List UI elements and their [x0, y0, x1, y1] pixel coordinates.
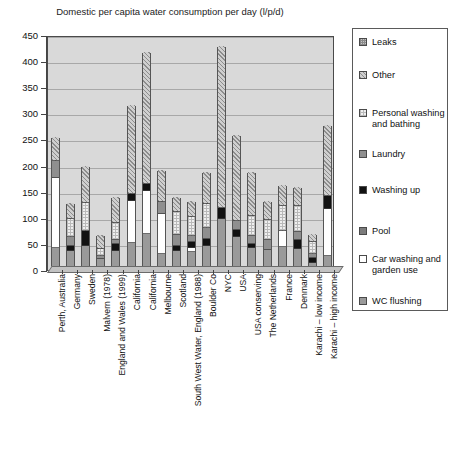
bar-segment-laundry — [233, 221, 240, 230]
bar-2[interactable] — [81, 167, 90, 270]
legend-item-label: WC flushing — [372, 296, 422, 307]
legend-item-label: Other — [372, 70, 395, 81]
bar-segment-other — [203, 172, 210, 204]
bar-18[interactable] — [323, 126, 332, 270]
plot-area — [47, 36, 334, 271]
y-axis-tick-label: 400 — [22, 57, 38, 67]
bar-12[interactable] — [232, 136, 241, 270]
bar-segment-other — [52, 137, 59, 161]
bar-segment-washup — [203, 239, 210, 245]
legend-item-3[interactable]: Laundry — [359, 149, 405, 160]
bar-segment-wc — [218, 219, 225, 269]
y-axis-tick-label: 0 — [33, 266, 38, 276]
bar-segment-personal — [294, 206, 301, 232]
bar-segment-laundry — [112, 240, 119, 244]
bar-segment-other — [112, 197, 119, 222]
bar-segment-other — [97, 235, 104, 249]
legend-swatch-icon — [359, 109, 367, 117]
gridline — [48, 115, 333, 116]
y-axis-tick-label: 150 — [22, 188, 38, 198]
bar-segment-wc — [143, 234, 150, 270]
bar-segment-personal — [279, 206, 286, 231]
bar-16[interactable] — [293, 188, 302, 271]
bar-3[interactable] — [96, 236, 105, 270]
bar-segment-laundry — [248, 236, 255, 244]
legend-item-4[interactable]: Washing up — [359, 185, 420, 196]
bar-segment-washup — [173, 246, 180, 251]
bar-segment-other — [309, 234, 316, 242]
bar-segment-laundry — [294, 232, 301, 239]
x-axis-tick-label: France — [285, 274, 294, 301]
bar-15[interactable] — [278, 186, 287, 270]
gridline — [48, 89, 333, 90]
bar-segment-other — [143, 52, 150, 184]
bar-17[interactable] — [308, 235, 317, 270]
x-axis-tick-label: Karachi – low income — [315, 274, 324, 356]
bar-segment-other — [173, 197, 180, 212]
bar-0[interactable] — [51, 138, 60, 270]
bar-1[interactable] — [66, 204, 75, 270]
bar-segment-other — [128, 105, 135, 195]
bar-segment-personal — [309, 242, 316, 253]
bar-segment-laundry — [67, 237, 74, 246]
bar-4[interactable] — [111, 198, 120, 270]
bar-13[interactable] — [247, 173, 256, 270]
legend-item-2[interactable]: Personal washing and bathing — [359, 108, 447, 130]
gridline — [48, 141, 333, 142]
legend-swatch-icon — [359, 38, 367, 46]
gridline — [48, 37, 333, 38]
bar-segment-personal — [203, 204, 210, 228]
bar-segment-other — [158, 170, 165, 202]
bar-segment-car — [143, 191, 150, 234]
legend-item-7[interactable]: WC flushing — [359, 296, 422, 307]
y-axis-tick-label: 50 — [27, 240, 38, 250]
bar-14[interactable] — [263, 202, 272, 270]
bar-segment-washup — [82, 231, 89, 245]
legend-item-label: Washing up — [372, 185, 420, 196]
legend-item-1[interactable]: Other — [359, 70, 395, 81]
bar-10[interactable] — [202, 173, 211, 270]
bar-7[interactable] — [157, 171, 166, 270]
y-axis: 450400350300250200150100500 — [0, 30, 47, 278]
gridline — [48, 168, 333, 169]
bar-segment-other — [294, 187, 301, 207]
bar-11[interactable] — [217, 47, 226, 271]
bar-6[interactable] — [142, 53, 151, 270]
y-axis-tick-label: 100 — [22, 214, 38, 224]
x-axis-tick-label: NYC — [224, 274, 233, 292]
bar-segment-car — [52, 178, 59, 249]
x-axis-tick-label: Malvern (1978) — [103, 274, 112, 332]
x-axis-tick-label: Melbourne — [164, 274, 173, 315]
x-axis-tick-label: Boulder Co — [209, 274, 218, 317]
bar-segment-personal — [82, 203, 89, 232]
bar-segment-other — [82, 166, 89, 203]
bar-segment-other — [248, 172, 255, 215]
bar-segment-other — [233, 135, 240, 221]
gridline — [48, 63, 333, 64]
x-axis-tick-label: Sweden — [88, 274, 97, 305]
legend-swatch-icon — [359, 150, 367, 158]
bar-segment-laundry — [264, 240, 271, 249]
legend-item-5[interactable]: Pool — [359, 226, 390, 237]
legend-item-label: Car washing and garden use — [372, 254, 447, 276]
bar-segment-washup — [248, 244, 255, 248]
x-axis-tick-label: The Netherlands — [269, 274, 278, 338]
bar-segment-washup — [233, 230, 240, 236]
x-axis-tick-label: Denmark — [300, 274, 309, 309]
bar-5[interactable] — [127, 106, 136, 271]
bar-segment-other — [188, 201, 195, 217]
bar-segment-washup — [188, 242, 195, 247]
bar-9[interactable] — [187, 202, 196, 270]
legend-item-label: Pool — [372, 226, 390, 237]
bar-segment-laundry — [173, 235, 180, 245]
legend-swatch-icon — [359, 71, 367, 79]
bar-segment-other — [218, 46, 225, 208]
legend-item-6[interactable]: Car washing and garden use — [359, 254, 447, 276]
bar-segment-laundry — [158, 202, 165, 213]
legend-item-0[interactable]: Leaks — [359, 37, 397, 48]
legend-item-label: Personal washing and bathing — [372, 108, 447, 130]
bar-8[interactable] — [172, 198, 181, 270]
x-axis-tick-label: California — [149, 274, 158, 310]
bar-segment-washup — [294, 240, 301, 249]
bar-segment-other — [67, 203, 74, 219]
